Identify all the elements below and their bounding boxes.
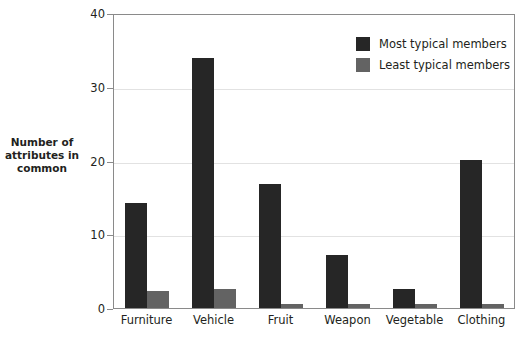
bar bbox=[326, 255, 348, 308]
legend-item: Most typical members bbox=[356, 33, 510, 54]
legend: Most typical membersLeast typical member… bbox=[356, 33, 510, 75]
legend-label: Least typical members bbox=[379, 58, 510, 72]
y-tick-label: 30 bbox=[65, 82, 105, 94]
y-tick-label: 0 bbox=[65, 303, 105, 315]
bar bbox=[482, 304, 504, 308]
legend-swatch bbox=[356, 58, 370, 72]
legend-swatch bbox=[356, 37, 370, 51]
legend-label: Most typical members bbox=[379, 37, 507, 51]
bar bbox=[214, 289, 236, 308]
bar bbox=[281, 304, 303, 308]
y-tick-mark bbox=[107, 309, 113, 310]
bar-chart: Number of attributes in common 010203040… bbox=[0, 0, 524, 339]
gridline bbox=[114, 163, 514, 164]
x-tick-label: Weapon bbox=[314, 313, 381, 327]
y-tick-label: 10 bbox=[65, 229, 105, 241]
bar bbox=[125, 203, 147, 308]
bar bbox=[393, 289, 415, 308]
x-tick-label: Clothing bbox=[448, 313, 515, 327]
bar-group bbox=[125, 15, 169, 308]
bar bbox=[147, 291, 169, 308]
bar-group bbox=[192, 15, 236, 308]
x-tick-label: Furniture bbox=[113, 313, 180, 327]
gridline bbox=[114, 236, 514, 237]
y-tick-label: 40 bbox=[65, 8, 105, 20]
gridline bbox=[114, 89, 514, 90]
bar-group bbox=[259, 15, 303, 308]
x-tick-label: Fruit bbox=[247, 313, 314, 327]
x-tick-label: Vehicle bbox=[180, 313, 247, 327]
bar bbox=[192, 58, 214, 308]
bar bbox=[415, 304, 437, 308]
legend-item: Least typical members bbox=[356, 54, 510, 75]
bar bbox=[460, 160, 482, 308]
y-axis-title-line-1: Number of bbox=[0, 136, 84, 149]
x-tick-label: Vegetable bbox=[381, 313, 448, 327]
bar bbox=[259, 184, 281, 308]
y-tick-label: 20 bbox=[65, 156, 105, 168]
bar bbox=[348, 304, 370, 308]
